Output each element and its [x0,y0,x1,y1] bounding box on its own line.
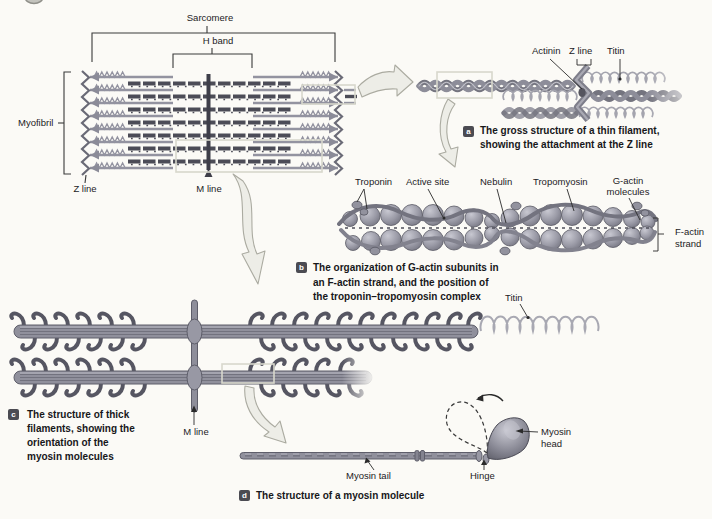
myosin-molecule-art [240,395,538,471]
m-line-bar [207,74,211,170]
arrow-to-panel-b [439,99,458,167]
panel-a-badge: a [463,126,474,137]
cutoff-figure-mark [25,0,43,4]
label-m-line-myofibril: M line [186,184,232,195]
label-tropomyosin: Tropomyosin [533,177,588,188]
panel-c-caption: The structure of thick filaments, showin… [27,408,135,464]
label-troponin: Troponin [355,177,392,188]
titin-coil-c [481,317,599,331]
label-active-site: Active site [406,177,449,188]
h-band-bracket [173,54,252,68]
panel-a-caption: The gross structure of a thin filament, … [480,124,659,152]
m-line-structure [192,300,198,412]
panel-d-caption: The structure of a myosin molecule [256,489,424,503]
label-actinin: Actinin [532,46,561,57]
arrow-to-panel-c [233,174,265,284]
figure-canvas: Sarcomere H band Myofibril Z line M line… [0,0,712,519]
myofibril-bracket [64,72,71,174]
label-titin-panel-a: Titin [607,46,625,57]
label-nebulin: Nebulin [480,177,512,188]
panel-c-badge: c [8,409,19,420]
label-myofibril: Myofibril [18,118,53,129]
label-hinge: Hinge [470,471,495,482]
panel-b-badge: b [296,262,307,273]
label-titin-panel-c: Titin [505,293,523,304]
z-line-left [82,71,89,175]
f-actin-art [339,189,664,255]
myosin-head-dashed-outline [446,402,487,453]
actinin-blob [578,88,585,97]
myofibril-art [58,26,357,183]
thin-filament-art [419,59,710,126]
z-line-pointer [85,175,86,183]
hinge-loop [476,451,482,462]
label-h-band: H band [183,36,253,47]
label-sarcomere: Sarcomere [170,13,250,24]
z-line-right [335,71,342,175]
thick-filament-art [11,300,598,425]
arrow-to-panel-a [358,65,413,97]
label-m-line-panel-c: M line [178,427,214,438]
label-myosin-head: Myosin head [541,426,571,450]
panel-b-caption: The organization of G-actin subunits in … [313,261,499,305]
label-z-line-myofibril: Z line [65,184,105,195]
label-z-line-panel-a: Z line [569,46,592,57]
label-myosin-tail: Myosin tail [346,471,391,482]
label-g-actin: G-actin molecules [602,176,654,197]
panel-d-badge: d [239,490,250,501]
label-f-actin: F-actin strand [675,226,704,250]
tail-collar [415,451,419,462]
